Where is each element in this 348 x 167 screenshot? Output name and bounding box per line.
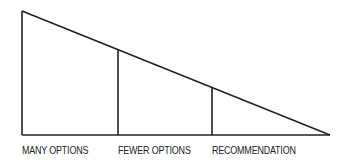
stage-label-fewer-options: FEWER OPTIONS (118, 144, 191, 156)
funnel-triangle-diagram (0, 0, 348, 167)
stage-label-many-options: MANY OPTIONS (22, 144, 88, 156)
stage-label-recommendation: RECOMMENDATION (212, 144, 296, 156)
hypotenuse (22, 11, 330, 135)
